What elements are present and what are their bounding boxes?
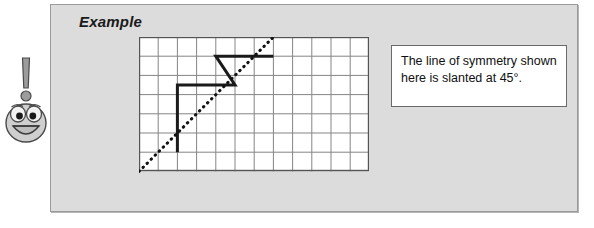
page-title: Example (79, 13, 142, 30)
exclamation-face-mascot (4, 52, 48, 148)
example-panel: Example The line of symmetry shown here … (50, 4, 578, 212)
symmetry-grid (139, 37, 369, 182)
exclamation-dot-icon (21, 91, 31, 101)
callout-text: The line of symmetry shown here is slant… (401, 53, 557, 86)
symmetry-grid-svg (139, 37, 369, 182)
mascot-svg (4, 52, 48, 148)
face-left-pupil-icon (16, 113, 23, 120)
callout-box: The line of symmetry shown here is slant… (391, 45, 567, 107)
face-right-pupil-icon (29, 113, 36, 120)
exclamation-bar-icon (23, 58, 30, 88)
